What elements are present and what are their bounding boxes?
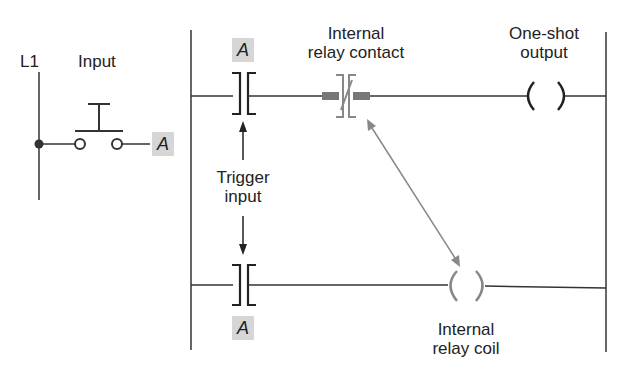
relay-link-arrow-icon — [367, 119, 460, 267]
top-contact-a-icon — [232, 73, 256, 114]
bottom-contact-tag-a: A — [232, 316, 254, 340]
trigger-input-label: Trigger input — [203, 168, 283, 206]
internal-coil-label: Internal relay coil — [416, 320, 516, 358]
input-label: Input — [78, 52, 116, 71]
input-tag-a: A — [152, 132, 174, 156]
internal-relay-coil-icon — [451, 271, 483, 301]
l1-label: L1 — [20, 52, 39, 71]
trigger-arrow-down-icon — [239, 216, 247, 255]
internal-contact-label: Internal relay contact — [286, 24, 426, 62]
internal-relay-nc-contact-icon — [322, 75, 370, 117]
trigger-arrow-up-icon — [239, 121, 247, 160]
one-shot-output-label: One-shot output — [494, 24, 594, 62]
top-contact-tag-a: A — [232, 38, 254, 62]
pushbutton-icon — [39, 104, 150, 149]
one-shot-output-coil-icon — [528, 82, 564, 110]
